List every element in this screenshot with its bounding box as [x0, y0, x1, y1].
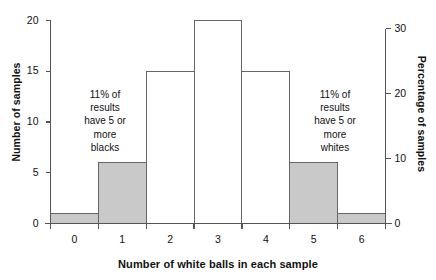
y-axis-left-tick-label: 20	[13, 14, 39, 26]
y-axis-left-tick-label: 5	[13, 166, 39, 178]
y-axis-left-title: Number of samples	[10, 42, 22, 182]
y-axis-right-tick-label: 0	[395, 217, 421, 229]
histogram-bar	[98, 163, 146, 224]
annotation-left-blacks: 11% of results have 5 or more blacks	[62, 88, 148, 154]
histogram-bar	[338, 213, 386, 223]
y-axis-right-tick-label: 30	[395, 22, 421, 34]
y-axis-left-tick-label: 0	[13, 217, 39, 229]
x-axis-tick-label: 3	[205, 233, 231, 245]
x-axis-tick-label: 2	[157, 233, 183, 245]
histogram-bar	[290, 163, 338, 224]
histogram-bar	[51, 213, 99, 223]
histogram-bar	[194, 21, 242, 224]
x-axis-tick-label: 5	[301, 233, 327, 245]
annotation-right-whites: 11% of results have 5 or more whites	[292, 88, 378, 154]
y-axis-right-tick-label: 10	[395, 152, 421, 164]
histogram-bar	[146, 71, 194, 223]
y-axis-right-tick-label: 20	[395, 87, 421, 99]
x-axis-tick-label: 4	[253, 233, 279, 245]
histogram-chart: Number of samples Percentage of samples …	[0, 0, 436, 280]
x-axis-title: Number of white balls in each sample	[0, 258, 436, 270]
y-axis-left-tick-label: 15	[13, 64, 39, 76]
x-axis-tick-label: 0	[61, 233, 87, 245]
x-axis-tick-label: 6	[349, 233, 375, 245]
y-axis-left-tick-label: 10	[13, 115, 39, 127]
x-axis-tick-label: 1	[109, 233, 135, 245]
histogram-bar	[242, 71, 290, 223]
